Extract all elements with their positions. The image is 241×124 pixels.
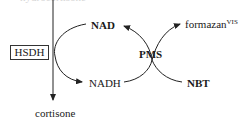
label-nbt: NBT <box>187 77 210 89</box>
label-nadh: NADH <box>89 77 121 89</box>
formazan-superscript: VIS <box>227 18 238 26</box>
nad-to-nadh-arrow <box>54 24 86 82</box>
enzyme-box-hsdh: HSDH <box>10 45 49 60</box>
label-pms: PMS <box>139 48 162 60</box>
label-nad: NAD <box>91 19 115 31</box>
label-cortisone: cortisone <box>35 107 75 119</box>
formazan-text: formazan <box>185 18 227 30</box>
label-formazan: formazanVIS <box>185 18 238 30</box>
